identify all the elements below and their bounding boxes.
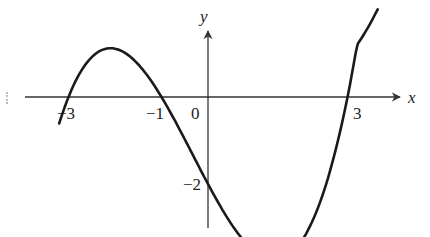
function-graph: y x 0 −3 −1 3 −2: [0, 0, 430, 237]
x-tick-neg1: −1: [146, 104, 164, 123]
x-tick-3: 3: [353, 104, 362, 123]
x-axis-label: x: [407, 88, 416, 107]
cubic-curve: [59, 9, 378, 237]
y-axis-label: y: [198, 7, 208, 26]
origin-label: 0: [191, 104, 200, 123]
x-tick-neg3: −3: [57, 104, 75, 123]
y-tick-neg2: −2: [183, 175, 201, 194]
